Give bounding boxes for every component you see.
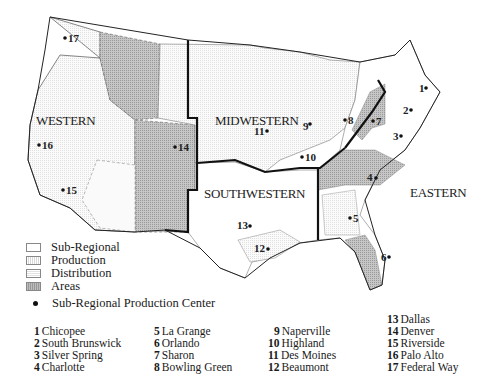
svg-text:15: 15 [66, 184, 78, 196]
city-item: 11Des Moines [268, 349, 336, 361]
city-marker-10: 10 [300, 151, 316, 163]
city-item: 3Silver Spring [34, 349, 121, 361]
city-item: 4Charlotte [34, 361, 121, 373]
label-eastern: EASTERN [410, 185, 467, 200]
swatch-sub-regional [26, 243, 41, 252]
legend-item: Areas [26, 280, 215, 293]
svg-text:3: 3 [393, 130, 399, 142]
city-item: 8Bowling Green [154, 361, 232, 373]
city-item: 6Orlando [154, 337, 232, 349]
svg-text:7: 7 [376, 115, 382, 127]
city-item: 9Naperville [268, 325, 336, 337]
city-item: 17Federal Way [387, 361, 458, 373]
city-item: 13Dallas [387, 313, 458, 325]
production-center-dot-icon [33, 301, 38, 306]
city-item: 12Beaumont [268, 361, 336, 373]
svg-text:5: 5 [353, 212, 359, 224]
city-column-4: 13Dallas 14Denver 15Riverside 16Palo Alt… [387, 313, 458, 373]
swatch-production [26, 256, 41, 265]
svg-text:9: 9 [303, 120, 309, 132]
city-item: 7Sharon [154, 349, 232, 361]
legend-dot-item: Sub-Regional Production Center [26, 297, 215, 310]
legend-dot-label: Sub-Regional Production Center [52, 297, 215, 310]
city-item: 16Palo Alto [387, 349, 458, 361]
svg-text:12: 12 [254, 242, 266, 254]
legend-label: Areas [51, 280, 80, 293]
swatch-areas [26, 282, 41, 291]
svg-text:4: 4 [367, 171, 373, 183]
svg-text:1: 1 [419, 82, 425, 94]
city-marker-6: 6 [381, 251, 391, 263]
city-column-2: 5La Grange 6Orlando 7Sharon 8Bowling Gre… [154, 325, 232, 373]
city-item: 14Denver [387, 325, 458, 337]
svg-text:6: 6 [381, 251, 387, 263]
svg-text:17: 17 [68, 32, 80, 44]
svg-text:8: 8 [348, 114, 354, 126]
city-item: 10Highland [268, 337, 336, 349]
city-item: 15Riverside [387, 337, 458, 349]
svg-text:14: 14 [178, 141, 190, 153]
svg-text:11: 11 [254, 125, 264, 137]
city-item: 2South Brunswick [34, 337, 121, 349]
city-marker-17: 17 [63, 32, 79, 44]
city-item: 1Chicopee [34, 325, 121, 337]
city-column-1: 1Chicopee 2South Brunswick 3Silver Sprin… [34, 325, 121, 373]
map-legend: Sub-Regional Production Distribution Are… [26, 241, 215, 310]
svg-text:13: 13 [237, 219, 249, 231]
svg-text:16: 16 [42, 139, 54, 151]
label-western: WESTERN [36, 113, 96, 128]
svg-text:2: 2 [403, 104, 409, 116]
city-item: 5La Grange [154, 325, 232, 337]
city-column-3: 9Naperville 10Highland 11Des Moines 12Be… [268, 325, 336, 373]
svg-text:10: 10 [305, 151, 317, 163]
swatch-distribution [26, 269, 41, 278]
label-southwestern: SOUTHWESTERN [204, 186, 306, 201]
